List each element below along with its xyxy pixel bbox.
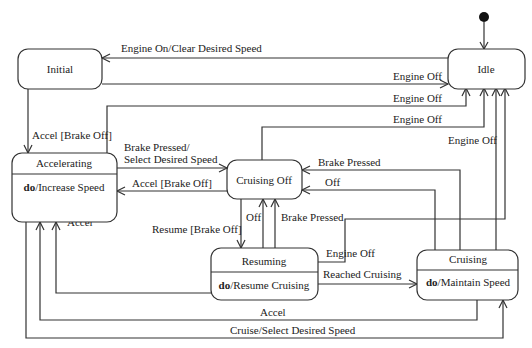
state-initial[interactable]: Initial [18, 49, 102, 89]
transition-label: Resume [Brake Off] [152, 223, 242, 235]
transition-label: Accel [Brake Off] [32, 129, 112, 141]
transition-label-line2: Select Desired Speed [124, 153, 218, 165]
transition-cruising-off-to-resuming: Resume [Brake Off] [152, 199, 245, 248]
state-resuming[interactable]: Resuming do/Resume Cruising [211, 248, 318, 300]
state-cruising[interactable]: Cruising do/Maintain Speed [417, 250, 518, 300]
transition-idle-to-initial: Engine On/Clear Desired Speed [102, 42, 448, 62]
transition-resuming-to-cruising-off-off: Off [246, 199, 267, 248]
transition-label: Brake Pressed [318, 156, 381, 168]
transition-initial-to-accelerating: Accel [Brake Off] [24, 88, 112, 153]
state-activity: do/Resume Cruising [219, 279, 310, 291]
transition-label: Accel [Brake Off] [132, 177, 212, 189]
state-idle[interactable]: Idle [448, 49, 525, 89]
state-activity: do/Maintain Speed [426, 276, 511, 288]
state-name: Idle [477, 63, 494, 75]
transition-label: Engine On/Clear Desired Speed [121, 42, 262, 54]
state-cruising-off[interactable]: Cruising Off [227, 160, 302, 199]
transition-label: Engine Off [326, 247, 375, 259]
state-activity: do/Increase Speed [24, 181, 105, 193]
transition-cruising-off-to-idle: Engine Off [262, 88, 488, 160]
transition-cruising-to-cruising-off-brake: Brake Pressed [302, 156, 460, 250]
transition-label: Engine Off [393, 113, 442, 125]
transition-label: Engine Off [448, 134, 497, 146]
transition-label: Brake Pressed [281, 211, 344, 223]
transition-label: Cruise/Select Desired Speed [230, 324, 356, 336]
state-name: Cruising [449, 253, 487, 265]
state-name: Resuming [242, 255, 287, 267]
state-name: Accelerating [36, 157, 93, 169]
state-diagram: Engine On/Clear Desired Speed Engine Off… [0, 0, 532, 348]
transition-label: Off [325, 176, 340, 188]
transition-label: Engine Off [393, 70, 442, 82]
state-accelerating[interactable]: Accelerating do/Increase Speed [12, 153, 117, 222]
transition-label: Off [246, 211, 261, 223]
transition-label-line1: Brake Pressed/ [124, 141, 191, 153]
state-name: Cruising Off [236, 174, 292, 186]
transition-resuming-to-cruising-off-brake: Brake Pressed [271, 199, 344, 248]
initial-pseudostate [479, 12, 489, 49]
state-name: Initial [47, 63, 73, 75]
transition-label: Accel [260, 306, 286, 318]
transition-cruising-to-idle: Engine Off [448, 88, 500, 250]
transition-cruising-off-to-accelerating: Accel [Brake Off] [117, 177, 227, 195]
transition-accelerating-to-cruising-off: Brake Pressed/ Select Desired Speed [117, 141, 227, 172]
transition-resuming-to-cruising: Reached Cruising [318, 268, 417, 288]
transition-label: Reached Cruising [323, 268, 402, 280]
transition-label: Engine Off [393, 92, 442, 104]
transition-initial-to-idle: Engine Off [102, 70, 448, 88]
